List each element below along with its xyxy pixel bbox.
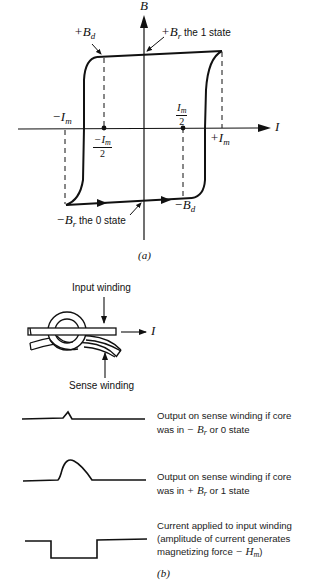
b-axis-label: B	[140, 0, 148, 12]
waveform-description-1-state: Output on sense winding if core was in +…	[157, 471, 291, 498]
current-label: I	[151, 325, 155, 337]
sign: −	[56, 212, 65, 227]
sign: +	[74, 24, 83, 39]
magnetic-core	[28, 312, 121, 357]
waveform-description-0-state: Output on sense winding if core was in −…	[157, 410, 291, 437]
plus-bd-label: +Bd	[74, 26, 95, 39]
label-text: the 0 state	[76, 215, 125, 226]
i-axis-arrow-icon	[258, 124, 271, 132]
caption-b: (b)	[157, 567, 170, 579]
symbol: B	[197, 484, 204, 496]
description-line: magnetizing force − Hm)	[157, 545, 292, 560]
sign: −	[174, 197, 183, 212]
br-pointer-arrow	[147, 37, 164, 51]
description-line: (amplitude of current generates	[157, 533, 292, 546]
symbol: B	[83, 24, 91, 39]
sign: −	[52, 109, 61, 124]
waveform-output-0-state	[22, 412, 145, 419]
plus-br-label: +Br the 1 state	[161, 26, 231, 39]
subscript: m	[65, 116, 72, 126]
minus-br-label: −Br the 0 state	[56, 214, 126, 227]
symbol: B	[170, 24, 178, 39]
symbol: B	[65, 212, 73, 227]
subscript: m	[223, 137, 230, 147]
denominator: 2	[93, 148, 112, 159]
subscript: m	[181, 106, 187, 115]
direction-arrow-icon	[97, 199, 107, 207]
label-text: the 1 state	[181, 27, 230, 38]
description-line: was in + Br or 1 state	[157, 484, 291, 499]
denominator: 2	[176, 116, 187, 127]
im-half-label: Im 2	[176, 101, 187, 127]
description-line: Output on sense winding if core	[157, 471, 291, 484]
waveform-description-input-current: Current applied to input winding (amplit…	[157, 520, 292, 560]
subscript: d	[91, 31, 96, 41]
description-line: Output on sense winding if core	[157, 410, 291, 423]
sign: +	[187, 484, 197, 496]
i-axis-label: I	[275, 121, 279, 133]
sign: +	[161, 24, 170, 39]
symbol: B	[197, 423, 204, 435]
subscript: r	[73, 219, 77, 229]
symbol: B	[183, 197, 191, 212]
minus-br-pointer-arrow	[130, 203, 141, 215]
description-line: was in − Br or 0 state	[157, 423, 291, 438]
sense-winding-label: Sense winding	[69, 380, 134, 392]
sign: +	[210, 130, 219, 145]
waveform-input-current	[25, 539, 147, 558]
text: or 1 state	[207, 485, 250, 496]
minus-bd-label: −Bd	[174, 199, 195, 212]
subscript: r	[204, 428, 207, 437]
sign: −	[235, 545, 245, 557]
input-winding-label: Input winding	[72, 282, 131, 294]
caption-a: (a)	[138, 249, 151, 261]
point-minus-im-half	[102, 126, 107, 131]
subscript: d	[191, 204, 196, 214]
minus-im-label: −Im	[52, 111, 72, 124]
text: was in	[157, 485, 187, 496]
plus-im-label: +Im	[210, 132, 230, 145]
text: )	[259, 546, 262, 557]
text: or 0 state	[207, 424, 250, 435]
waveform-output-1-state	[23, 460, 146, 481]
bd-pointer-arrow	[92, 44, 101, 54]
symbol: H	[246, 545, 254, 557]
text: was in	[157, 424, 187, 435]
subscript: m	[254, 550, 260, 559]
b-axis	[140, 15, 148, 240]
numerator: −I	[94, 133, 105, 145]
b-axis-arrow-icon	[140, 15, 148, 28]
description-line: Current applied to input winding	[157, 520, 292, 533]
text: magnetizing force	[157, 546, 235, 557]
subscript: m	[105, 138, 111, 147]
subscript: r	[204, 489, 207, 498]
direction-arrow-icon	[161, 196, 171, 204]
subscript: r	[178, 31, 182, 41]
sign: −	[187, 423, 197, 435]
minus-im-half-label: −Im 2	[93, 133, 112, 159]
